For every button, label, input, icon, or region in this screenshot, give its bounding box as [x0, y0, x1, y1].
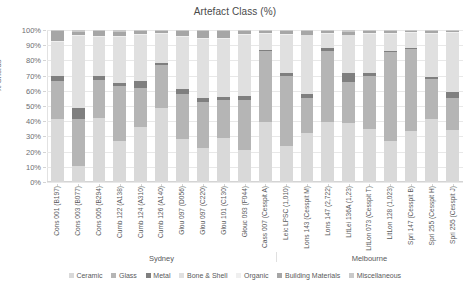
x-axis-tick-label: LitLon 073 (Cesspit T) — [366, 186, 373, 251]
x-axis-tick: LitLei 136A (1,23) — [338, 184, 359, 250]
chart-legend: CeramicGlassMetalBone & ShellOrganicBuil… — [0, 272, 470, 279]
y-axis-tick-label: 30% — [5, 132, 41, 141]
x-axis-tick: Spri 255 (Cesspit J) — [442, 184, 463, 250]
legend-swatch-icon — [277, 273, 282, 278]
legend-label: Organic — [244, 272, 269, 279]
group-label: Melbourne — [352, 254, 387, 263]
x-axis-tick: Glou 097 (D056) — [172, 184, 193, 250]
x-axis-tick-label: Cumb 126 (A140) — [158, 186, 165, 238]
y-axis-tick-label: 10% — [5, 162, 41, 171]
group-separator — [276, 252, 277, 262]
x-axis-tick: Leic LPSC (1,010) — [276, 184, 297, 250]
y-axis-tick-label: 20% — [5, 147, 41, 156]
y-axis-tick-label: 50% — [5, 102, 41, 111]
x-axis-tick: Cass 007 (Cesspit A) — [255, 184, 276, 250]
legend-swatch-icon — [179, 273, 184, 278]
x-axis-tick: Lons 143 (Cesspit M) — [297, 184, 318, 250]
y-axis-tick-label: 0% — [5, 178, 41, 187]
x-axis-tick: Cumb 124 (A310) — [130, 184, 151, 250]
y-axis-tick-mark — [43, 106, 46, 107]
x-axis-tick-label: Lons 147 (2,722) — [324, 186, 331, 236]
x-axis-tick-label: Glou 097 (D056) — [179, 186, 186, 235]
x-axis-tick-label: Glouc 093 (F044) — [241, 186, 248, 237]
x-axis-tick-label: Cons 005 (B294) — [96, 186, 103, 236]
y-axis-title: % Sherds — [0, 59, 3, 92]
legend-swatch-icon — [349, 273, 354, 278]
legend-swatch-icon — [111, 273, 116, 278]
y-axis-tick-label: 90% — [5, 41, 41, 50]
legend-swatch-icon — [146, 273, 151, 278]
y-axis-tick-mark — [43, 45, 46, 46]
y-axis-tick-mark — [43, 76, 46, 77]
legend-item[interactable]: Ceramic — [69, 272, 103, 279]
legend-item[interactable]: Glass — [111, 272, 136, 279]
x-axis-tick: Spri 147 (Cesspit B) — [401, 184, 422, 250]
x-axis-tick-label: LitLei 136A (1,23) — [345, 186, 352, 238]
x-axis-tick-label: Cumb 122 (A138) — [116, 186, 123, 238]
legend-item[interactable]: Metal — [146, 272, 171, 279]
x-axis-tick-label: Spri 255 (Cesspit J) — [449, 186, 456, 244]
y-axis-tick-mark — [43, 152, 46, 153]
legend-label: Miscellaneous — [357, 272, 401, 279]
x-axis-tick: Cons 001 (B197) — [47, 184, 68, 250]
x-axis-tick: Cumb 126 (A140) — [151, 184, 172, 250]
x-axis-tick-label: Spri 255 (Cesspit H) — [428, 186, 435, 245]
x-axis-tick: LitLon 073 (Cesspit T) — [359, 184, 380, 250]
x-axis-ticks: Cons 001 (B197)Cons 003 (B077)Cons 005 (… — [47, 184, 463, 250]
y-axis-tick-mark — [43, 30, 46, 31]
x-axis-tick-label: Cons 001 (B197) — [54, 186, 61, 236]
group-label: Sydney — [149, 254, 174, 263]
y-axis-tick-label: 80% — [5, 56, 41, 65]
legend-item[interactable]: Building Materials — [277, 272, 340, 279]
x-axis-tick-label: Lons 143 (Cesspit M) — [304, 186, 311, 249]
x-axis-tick-label: Cumb 124 (A310) — [137, 186, 144, 238]
x-axis-tick: Cumb 122 (A138) — [109, 184, 130, 250]
x-axis-tick: Glou 101 (C130) — [213, 184, 234, 250]
y-axis-tick-label: 60% — [5, 86, 41, 95]
y-axis-tick-mark — [43, 167, 46, 168]
legend-label: Metal — [153, 272, 170, 279]
legend-label: Bone & Shell — [187, 272, 227, 279]
y-axis-ticks: 0%10%20%30%40%50%60%70%80%90%100% — [0, 30, 470, 182]
legend-label: Glass — [119, 272, 137, 279]
y-axis-tick-mark — [43, 136, 46, 137]
x-axis-tick-label: LitLon 128 (1,023) — [387, 186, 394, 240]
x-axis-tick: Lons 147 (2,722) — [317, 184, 338, 250]
legend-swatch-icon — [69, 273, 74, 278]
legend-item[interactable]: Bone & Shell — [179, 272, 227, 279]
x-axis-tick-label: Leic LPSC (1,010) — [283, 186, 290, 240]
y-axis-tick-label: 40% — [5, 117, 41, 126]
gridline — [47, 182, 463, 183]
legend-item[interactable]: Organic — [236, 272, 268, 279]
x-axis-tick-label: Cass 007 (Cesspit A) — [262, 186, 269, 248]
x-axis-tick: Spri 255 (Cesspit H) — [421, 184, 442, 250]
legend-item[interactable]: Miscellaneous — [349, 272, 401, 279]
y-axis-tick-mark — [43, 60, 46, 61]
y-axis-tick-mark — [43, 182, 46, 183]
x-axis-group-labels: SydneyMelbourne — [47, 254, 463, 266]
y-axis-tick-mark — [43, 121, 46, 122]
legend-swatch-icon — [236, 273, 241, 278]
x-axis-tick-label: Glou 101 (C130) — [220, 186, 227, 235]
y-axis-tick-label: 70% — [5, 71, 41, 80]
y-axis-tick-mark — [43, 91, 46, 92]
x-axis-tick: Cons 003 (B077) — [68, 184, 89, 250]
x-axis-tick-label: Cons 003 (B077) — [75, 186, 82, 236]
chart-title: Artefact Class (%) — [0, 6, 470, 17]
x-axis-tick-label: Glou 097 (C220) — [200, 186, 207, 235]
x-axis-tick: Glouc 093 (F044) — [234, 184, 255, 250]
legend-label: Ceramic — [76, 272, 102, 279]
x-axis-tick: Glou 097 (C220) — [193, 184, 214, 250]
chart-container: Artefact Class (%) 0%10%20%30%40%50%60%7… — [0, 0, 470, 293]
x-axis-tick: LitLon 128 (1,023) — [380, 184, 401, 250]
x-axis-tick-label: Spri 147 (Cesspit B) — [408, 186, 415, 245]
x-axis-tick: Cons 005 (B294) — [89, 184, 110, 250]
y-axis-tick-label: 100% — [5, 26, 41, 35]
legend-label: Building Materials — [285, 272, 340, 279]
